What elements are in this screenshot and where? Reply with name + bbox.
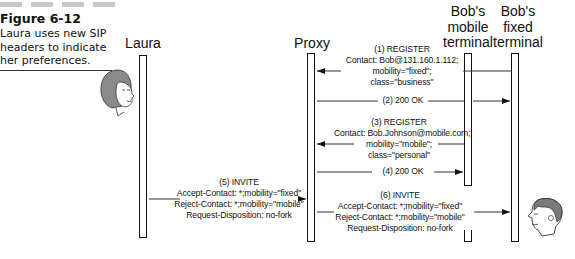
message-6-line: Request-Disposition: no-fork — [333, 223, 467, 234]
message-1-line: class="business" — [340, 77, 464, 88]
message-5-invite: (5) INVITE Accept-Contact: *;mobility="f… — [172, 177, 306, 221]
message-4-200ok: (4) 200 OK — [372, 166, 434, 177]
message-6-line: (6) INVITE — [333, 190, 467, 201]
woman-face-icon — [98, 68, 138, 120]
message-6-line: Reject-Contact: *;mobility="mobile" — [333, 212, 467, 223]
message-5-line: (5) INVITE — [172, 177, 306, 188]
message-5-line: Reject-Contact: *;mobility="mobile" — [172, 199, 306, 210]
message-4-line: (4) 200 OK — [372, 166, 434, 177]
man-face-icon — [524, 196, 568, 240]
message-1-line: (1) REGISTER — [340, 44, 464, 55]
message-6-invite: (6) INVITE Accept-Contact: *;mobility="f… — [333, 190, 467, 234]
message-1-register: (1) REGISTER Contact: Bob@131.160.1.112;… — [340, 44, 464, 88]
message-3-line: (3) REGISTER — [334, 117, 464, 128]
message-3-line: mobility="mobile"; — [334, 139, 464, 150]
message-1-line: Contact: Bob@131.160.1.112; — [340, 55, 464, 66]
message-5-line: Accept-Contact: *;mobility="fixed" — [172, 188, 306, 199]
message-2-line: (2) 200 OK — [378, 95, 428, 106]
message-3-register: (3) REGISTER Contact: Bob.Johnson@mobile… — [334, 117, 464, 161]
message-5-line: Request-Disposition: no-fork — [172, 210, 306, 221]
message-2-200ok: (2) 200 OK — [378, 95, 428, 106]
message-6-line: Accept-Contact: *;mobility="fixed" — [333, 201, 467, 212]
message-3-line: Contact: Bob.Johnson@mobile.com; — [334, 128, 464, 139]
message-1-line: mobility="fixed"; — [340, 66, 464, 77]
message-3-line: class="personal" — [334, 150, 464, 161]
